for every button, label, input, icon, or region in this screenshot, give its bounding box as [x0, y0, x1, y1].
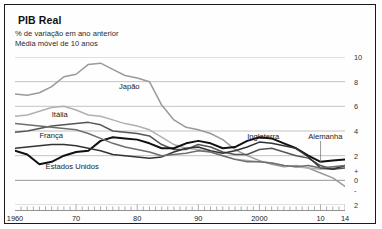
- y-axis-tick: 8: [354, 77, 358, 86]
- chart-subtitle-2: Média móvel de 10 anos: [15, 39, 98, 48]
- x-axis-label: 10: [316, 214, 324, 223]
- series-label-inglaterra: Inglaterra: [247, 132, 279, 141]
- y-axis-tick: 10: [354, 53, 362, 62]
- x-axis-label: 70: [72, 214, 80, 223]
- x-axis-ticks: [15, 203, 345, 213]
- y-axis-tick: 4: [354, 127, 358, 136]
- x-axis-label: 90: [194, 214, 202, 223]
- y-axis-tick: 6: [354, 102, 358, 111]
- x-axis-label: 14: [341, 214, 349, 223]
- x-axis-label: 1960: [7, 214, 23, 223]
- chart-card: PIB Real % de variação em ano anterior M…: [4, 4, 376, 224]
- plot-area: JapãoItáliaFrançaEstados UnidosInglaterr…: [15, 57, 345, 205]
- page-title: PIB Real: [18, 14, 61, 26]
- y-axis-tick: -: [354, 186, 356, 195]
- series-label-alemanha: Alemanha: [308, 132, 342, 141]
- series-label-it-lia: Itália: [52, 110, 68, 119]
- x-axis-label: 2000: [251, 214, 267, 223]
- y-axis: 108642+0-2: [348, 57, 378, 205]
- y-axis-tick: 0: [354, 176, 358, 185]
- line-chart-svg: [15, 57, 345, 205]
- series-label-jap-o: Japão: [119, 82, 140, 91]
- y-axis-tick: 2: [354, 201, 358, 210]
- series-label-estados-unidos: Estados Unidos: [46, 162, 99, 171]
- y-axis-tick: 2: [354, 151, 358, 160]
- x-axis: 196070809020001014: [15, 203, 345, 229]
- y-axis-tick: +: [354, 166, 358, 175]
- chart-subtitle-1: % de variação em ano anterior: [15, 29, 118, 38]
- x-axis-label: 80: [133, 214, 141, 223]
- series-label-fran-a: França: [39, 131, 63, 140]
